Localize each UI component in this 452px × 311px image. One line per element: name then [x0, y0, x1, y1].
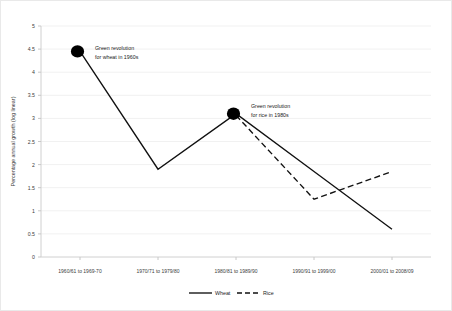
y-tick-label: 2	[32, 162, 35, 168]
y-tick-label: 0.5	[28, 231, 35, 237]
chart-legend: Wheat Rice	[189, 290, 274, 296]
line-chart: 5 4.5 4 3.5 3 2.5 2 1.5 1 0.5 0 Percenta…	[1, 1, 452, 311]
legend-label-wheat: Wheat	[215, 290, 231, 296]
annotation-rice: Green revolution for rice in 1980s	[251, 103, 290, 118]
annotation-rice-line1: Green revolution	[251, 103, 290, 109]
y-tick-label: 1.5	[28, 185, 35, 191]
x-tick-label: 1980/81 to 1989/90	[214, 268, 257, 274]
x-tick-label: 1960/61 to 1969-70	[58, 268, 102, 274]
y-tick-label: 4.5	[28, 46, 35, 52]
x-tick-label: 2000/01 to 2008/09	[370, 268, 413, 274]
legend-label-rice: Rice	[263, 290, 274, 296]
y-axis-tick-labels: 5 4.5 4 3.5 3 2.5 2 1.5 1 0.5 0	[28, 23, 35, 260]
y-tick-label: 3.5	[28, 92, 35, 98]
annotation-rice-line2: for rice in 1980s	[251, 112, 289, 118]
series-line-rice	[236, 115, 392, 199]
x-tick-label: 1970/71 to 1979/80	[136, 268, 179, 274]
rice-marker-dot	[227, 108, 240, 120]
y-tick-label: 5	[32, 23, 35, 29]
y-tick-label: 2.5	[28, 139, 35, 145]
chart-figure: 5 4.5 4 3.5 3 2.5 2 1.5 1 0.5 0 Percenta…	[0, 0, 452, 311]
y-axis-title: Percentage annual growth (log linear)	[10, 96, 16, 186]
y-tick-label: 4	[32, 69, 35, 75]
y-tick-label: 1	[32, 208, 35, 214]
annotation-wheat-line1: Green revolution	[95, 45, 134, 51]
x-axis-tick-labels: 1960/61 to 1969-70 1970/71 to 1979/80 19…	[58, 268, 413, 274]
y-tick-label: 0	[32, 254, 35, 260]
series-line-wheat	[80, 51, 392, 229]
annotation-wheat: Green revolution for wheat in 1960s	[95, 45, 139, 60]
annotation-wheat-line2: for wheat in 1960s	[95, 54, 139, 60]
wheat-marker-dot	[71, 45, 84, 57]
x-tick-label: 1990/91 to 1999/00	[292, 268, 335, 274]
y-tick-label: 3	[32, 115, 35, 121]
